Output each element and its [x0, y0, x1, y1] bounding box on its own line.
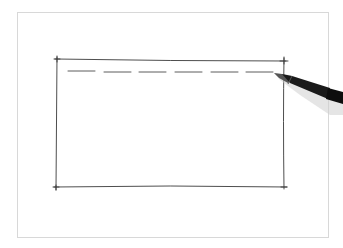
pen-icon	[274, 73, 343, 115]
hand-drawn-rectangle	[53, 56, 288, 190]
dashed-line	[68, 71, 273, 72]
sketch-canvas	[0, 0, 343, 248]
